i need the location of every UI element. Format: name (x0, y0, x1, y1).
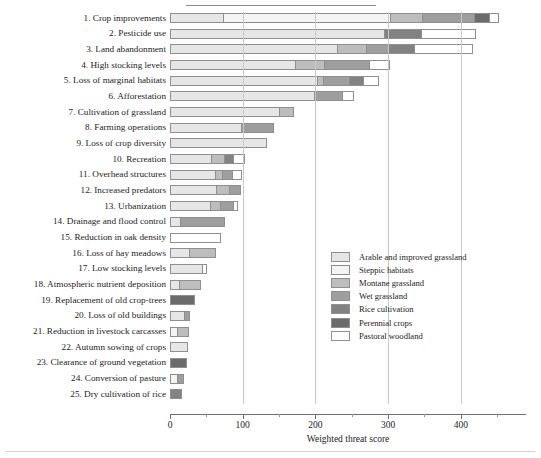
bar-segment (414, 44, 474, 54)
y-axis-label: 2. Pesticide use (109, 28, 166, 38)
bar-row (170, 264, 207, 274)
bar-row (170, 311, 190, 321)
bar-segment (363, 76, 378, 86)
bar-segment (170, 342, 188, 352)
bar-row (170, 44, 473, 54)
y-axis-labels: 1. Crop improvements2. Pesticide use3. L… (0, 12, 166, 404)
bar-segment (180, 217, 224, 227)
x-tick-label: 100 (236, 420, 250, 430)
legend-label: Wet grassland (359, 291, 407, 301)
bar-row (170, 60, 390, 70)
gridline-300 (388, 12, 389, 404)
x-tick-label: 200 (308, 420, 322, 430)
bar-segment (388, 44, 413, 54)
legend-label: Perennial crops (359, 318, 412, 328)
bar-segment (170, 13, 223, 23)
y-axis-label: 22. Autumn sowing of crops (62, 342, 166, 352)
bar-row (170, 91, 354, 101)
bar-segment (170, 280, 179, 290)
y-axis-label: 4. High stocking levels (81, 60, 166, 70)
x-tick-300 (388, 414, 389, 419)
x-tick-label: 0 (168, 420, 173, 430)
gridline-200 (315, 12, 316, 404)
legend-item: Perennial crops (331, 316, 517, 329)
bar-segment (295, 60, 324, 70)
x-axis-title: Weighted threat score (170, 434, 526, 444)
bar-row (170, 358, 187, 368)
y-axis-label: 5. Loss of marginal habitats (64, 75, 166, 85)
y-axis-label: 9. Loss of crop diversity (76, 138, 166, 148)
legend-item: Rice cultivation (331, 303, 517, 316)
bottom-divider (6, 451, 535, 452)
legend-label: Arable and improved grassland (359, 252, 467, 262)
figure: 1. Crop improvements2. Pesticide use3. L… (0, 0, 541, 458)
bar-segment (366, 44, 388, 54)
y-axis-label: 13. Urbanization (104, 201, 166, 211)
legend-label: Rice cultivation (359, 304, 414, 314)
bar-row (170, 138, 267, 148)
bar-segment (170, 60, 295, 70)
bar-segment (170, 248, 189, 258)
bar-segment (170, 201, 210, 211)
bar-segment (202, 264, 207, 274)
bar-row (170, 76, 379, 86)
bar-rows (170, 12, 519, 404)
y-axis-label: 19. Replacement of old crop-trees (41, 295, 166, 305)
y-axis-label: 10. Recreation (112, 154, 166, 164)
legend-label: Pastoral woodland (359, 331, 423, 341)
y-axis-label: 20. Loss of old buildings (74, 310, 166, 320)
bar-row (170, 201, 238, 211)
bar-segment (170, 358, 187, 368)
bar-row (170, 29, 476, 39)
y-axis-label: 8. Farming operations (85, 122, 166, 132)
y-axis-label: 15. Reduction in oak density (61, 232, 166, 242)
bar-segment (170, 29, 384, 39)
y-axis-label: 11. Overhead structures (79, 169, 166, 179)
legend-swatch (331, 304, 350, 314)
x-tick-minor (424, 414, 425, 417)
bar-segment (220, 201, 232, 211)
legend-swatch (331, 318, 350, 328)
bar-segment (474, 13, 489, 23)
bar-row (170, 217, 225, 227)
legend-swatch (331, 265, 350, 275)
bar-segment (170, 217, 180, 227)
bar-row (170, 280, 201, 290)
y-axis-label: 23. Clearance of ground vegetation (37, 357, 166, 367)
bar-row (170, 233, 221, 243)
gridline-100 (243, 12, 244, 404)
bar-segment (170, 44, 337, 54)
bar-segment (223, 13, 390, 23)
bar-segment (216, 185, 229, 195)
y-axis-label: 16. Loss of hay meadows (72, 248, 166, 258)
legend-item: Wet grassland (331, 290, 517, 303)
y-axis-label: 17. Low stocking levels (78, 263, 166, 273)
bar-row (170, 13, 499, 23)
bar-segment (170, 295, 195, 305)
bar-segment (314, 91, 342, 101)
bar-row (170, 327, 189, 337)
top-divider (186, 5, 376, 6)
x-tick-label: 300 (381, 420, 395, 430)
legend-label: Montane grassland (359, 278, 424, 288)
y-axis-label: 24. Conversion of pasture (71, 373, 166, 383)
bar-segment (177, 374, 184, 384)
gridline-400 (461, 12, 462, 404)
bar-segment (170, 264, 202, 274)
bar-segment (229, 185, 241, 195)
bar-segment (349, 76, 364, 86)
legend-item: Arable and improved grassland (331, 250, 517, 263)
bar-segment (170, 233, 221, 243)
bar-row (170, 107, 294, 117)
bar-row (170, 389, 182, 399)
bar-segment (170, 327, 177, 337)
bar-segment (170, 389, 182, 399)
bar-segment (384, 29, 420, 39)
bar-segment (170, 311, 184, 321)
legend-swatch (331, 278, 350, 288)
x-tick-minor (279, 414, 280, 417)
bar-segment (170, 154, 211, 164)
bar-segment (170, 170, 215, 180)
bar-segment (233, 201, 238, 211)
bar-row (170, 248, 216, 258)
